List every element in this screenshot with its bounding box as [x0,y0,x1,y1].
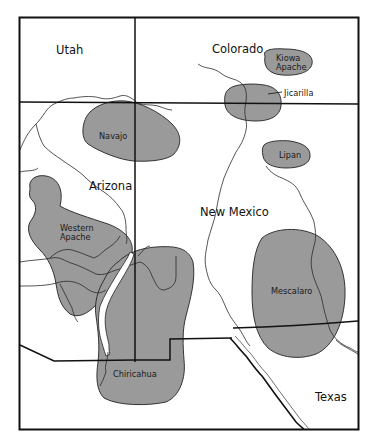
state-label-new-mexico: New Mexico [200,207,269,219]
territory-label-jicarilla: Jicarilla [284,89,313,97]
territory-label-mescalero: Mescalaro [271,287,312,295]
state-label-colorado: Colorado [212,44,263,56]
territory-label-navajo: Navajo [99,132,127,140]
territory-navajo [83,101,180,161]
territory-label-chiricahua: Chiricahua [113,370,157,378]
territory-chiricahua [95,247,193,405]
state-label-texas: Texas [315,392,347,404]
territory-label-lipan: Lipan [279,151,301,159]
territory-label-western-apache: Western Apache [60,224,94,243]
apache-territories-map [0,0,373,447]
territory-label-kiowa-apache: Kiowa Apache [276,54,307,73]
state-label-arizona: Arizona [89,181,132,193]
state-label-utah: Utah [56,45,83,57]
